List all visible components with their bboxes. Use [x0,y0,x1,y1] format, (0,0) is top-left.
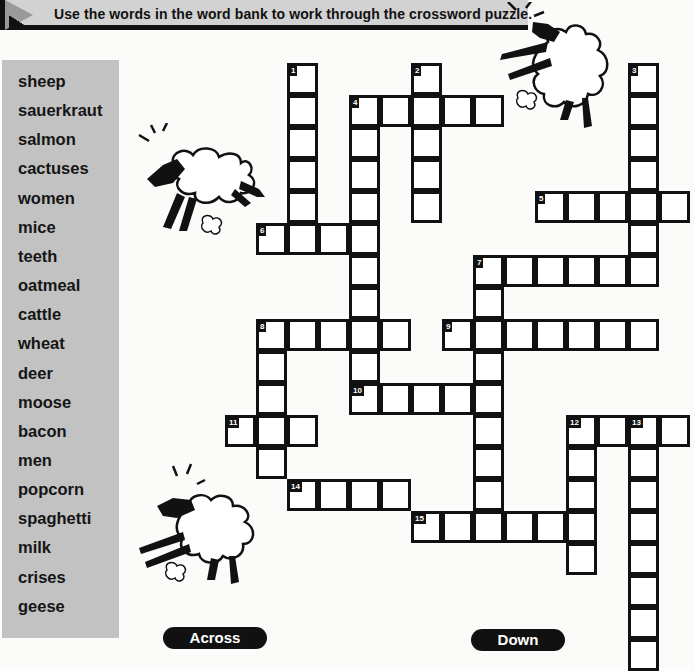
crossword-cell[interactable] [628,95,659,127]
crossword-cell[interactable] [442,511,473,543]
crossword-cell[interactable]: 7 [473,255,504,287]
crossword-cell[interactable] [318,479,349,511]
crossword-cell[interactable] [349,351,380,383]
crossword-cell[interactable] [287,127,318,159]
crossword-cell[interactable] [473,511,504,543]
crossword-cell[interactable] [411,159,442,191]
crossword-cell[interactable]: 3 [628,63,659,95]
crossword-cell[interactable] [535,511,566,543]
word-bank-item: mice [18,218,56,237]
crossword-cell[interactable] [504,319,535,351]
crossword-cell[interactable]: 4 [349,95,380,127]
crossword-cell[interactable] [628,127,659,159]
instruction-banner: Use the words in the word bank to work t… [0,0,528,30]
crossword-cell[interactable] [628,511,659,543]
crossword-cell[interactable] [349,159,380,191]
crossword-cell[interactable] [411,127,442,159]
crossword-cell[interactable] [628,543,659,575]
crossword-cell[interactable]: 5 [535,191,566,223]
crossword-cell[interactable] [535,255,566,287]
crossword-cell[interactable] [380,319,411,351]
crossword-cell[interactable] [628,575,659,607]
crossword-cell[interactable] [628,159,659,191]
crossword-cell[interactable] [566,191,597,223]
crossword-cell[interactable]: 2 [411,63,442,95]
crossword-cell[interactable] [411,383,442,415]
crossword-cell[interactable] [597,415,628,447]
crossword-cell[interactable]: 1 [287,63,318,95]
crossword-cell[interactable] [504,511,535,543]
crossword-cell[interactable]: 13 [628,415,659,447]
crossword-cell[interactable] [628,255,659,287]
crossword-cell[interactable] [473,287,504,319]
crossword-cell[interactable] [628,223,659,255]
crossword-cell[interactable] [566,319,597,351]
crossword-cell[interactable]: 15 [411,511,442,543]
crossword-cell[interactable] [473,383,504,415]
crossword-cell[interactable]: 10 [349,383,380,415]
crossword-cell[interactable] [659,191,690,223]
crossword-cell[interactable] [535,319,566,351]
crossword-cell[interactable] [473,415,504,447]
crossword-cell[interactable] [628,319,659,351]
crossword-cell[interactable] [628,639,659,671]
crossword-cell[interactable] [256,383,287,415]
word-bank-item: sheep [18,72,66,91]
crossword-cell[interactable] [256,447,287,479]
crossword-cell[interactable]: 6 [256,223,287,255]
crossword-cell[interactable] [349,255,380,287]
crossword-cell[interactable] [566,447,597,479]
crossword-cell[interactable] [411,95,442,127]
crossword-cell[interactable] [628,191,659,223]
crossword-cell[interactable] [473,479,504,511]
crossword-cell[interactable] [318,319,349,351]
crossword-cell[interactable]: 9 [442,319,473,351]
crossword-cell[interactable] [349,223,380,255]
clue-number: 2 [414,66,421,76]
crossword-cell[interactable] [349,287,380,319]
crossword-cell[interactable] [442,383,473,415]
crossword-cell[interactable]: 8 [256,319,287,351]
crossword-cell[interactable] [256,351,287,383]
crossword-cell[interactable] [566,543,597,575]
crossword-cell[interactable] [628,607,659,639]
crossword-cell[interactable] [473,351,504,383]
crossword-cell[interactable] [380,383,411,415]
word-bank-item: deer [18,364,53,383]
crossword-cell[interactable] [380,95,411,127]
crossword-cell[interactable] [504,255,535,287]
clue-number: 4 [352,98,359,108]
crossword-cell[interactable] [473,319,504,351]
crossword-cell[interactable] [287,95,318,127]
crossword-cell[interactable] [597,255,628,287]
crossword-cell[interactable] [411,191,442,223]
crossword-cell[interactable] [349,319,380,351]
crossword-cell[interactable] [473,447,504,479]
crossword-cell[interactable] [597,191,628,223]
word-bank: sheepsauerkrautsalmoncactuseswomenmicete… [2,60,119,638]
crossword-cell[interactable]: 11 [225,415,256,447]
crossword-cell[interactable] [473,95,504,127]
crossword-cell[interactable] [256,415,287,447]
crossword-cell[interactable] [349,127,380,159]
crossword-cell[interactable] [287,191,318,223]
crossword-cell[interactable] [349,191,380,223]
crossword-cell[interactable] [566,479,597,511]
crossword-cell[interactable]: 12 [566,415,597,447]
crossword-cell[interactable] [597,319,628,351]
crossword-cell[interactable] [442,95,473,127]
crossword-cell[interactable] [380,479,411,511]
crossword-cell[interactable] [659,415,690,447]
crossword-cell[interactable] [566,255,597,287]
crossword-cell[interactable] [287,319,318,351]
crossword-cell[interactable] [349,479,380,511]
crossword-cell[interactable] [287,223,318,255]
crossword-cell[interactable] [628,479,659,511]
crossword-cell[interactable] [628,447,659,479]
crossword-cell[interactable] [566,511,597,543]
crossword-cell[interactable] [287,415,318,447]
crossword-cell[interactable] [287,159,318,191]
sheep-icon [488,2,618,137]
crossword-cell[interactable]: 14 [287,479,318,511]
crossword-cell[interactable] [318,223,349,255]
